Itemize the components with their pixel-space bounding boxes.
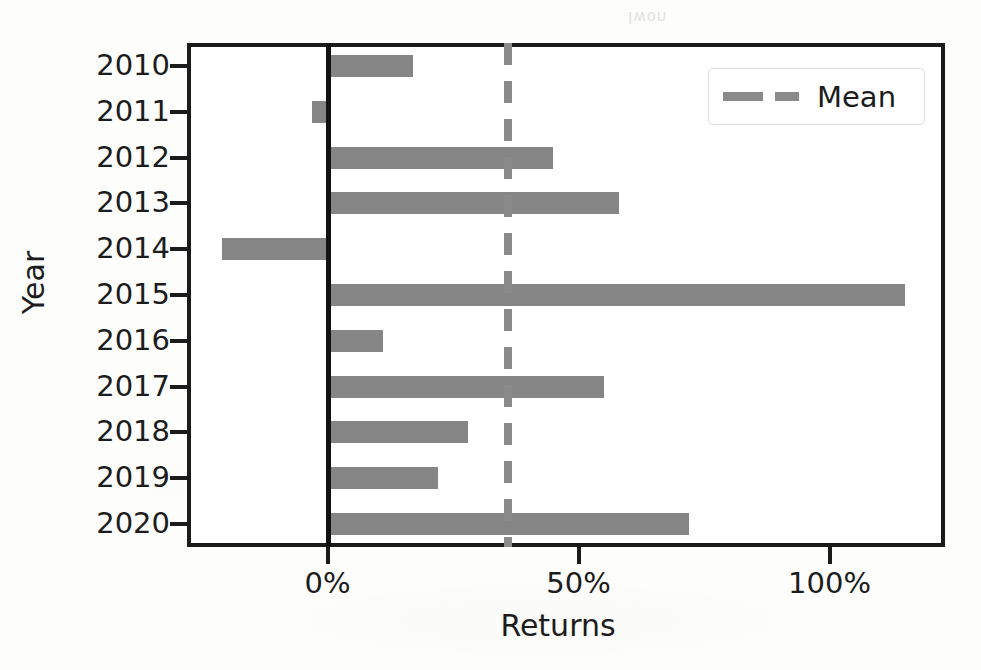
y-tick-label-2012: 2012	[96, 143, 170, 172]
y-tick-mark-2019	[170, 476, 187, 480]
mean-reference-line	[504, 43, 512, 547]
y-tick-label-2019: 2019	[96, 463, 170, 492]
y-tick-mark-2010	[170, 64, 187, 68]
y-tick-label-2010: 2010	[96, 51, 170, 80]
x-axis-title-text: Returns	[365, 608, 615, 643]
x-tick-mark-1	[577, 547, 581, 564]
returns-by-year-figure: Iwon 20102011201220132014201520162017201…	[0, 0, 981, 670]
y-tick-label-2011: 2011	[96, 97, 170, 126]
y-tick-mark-2018	[170, 430, 187, 434]
scan-bleed-artifact: Iwon	[628, 8, 778, 26]
x-axis-title: Returns	[0, 608, 981, 643]
y-axis-tick-labels: 2010201120122013201420152016201720182019…	[52, 0, 170, 670]
mean-line-swatch	[723, 92, 799, 101]
y-tick-mark-2016	[170, 339, 187, 343]
bar-2016	[328, 330, 383, 352]
x-tick-label-2: 100%	[788, 566, 871, 600]
zero-reference-line	[326, 43, 331, 547]
x-tick-mark-2	[828, 547, 832, 564]
y-tick-mark-2011	[170, 110, 187, 114]
bar-2018	[328, 421, 469, 443]
y-tick-label-2013: 2013	[96, 188, 170, 217]
x-tick-label-1: 50%	[546, 566, 610, 600]
bar-2019	[328, 467, 438, 489]
x-tick-mark-0	[326, 547, 330, 564]
y-tick-label-2017: 2017	[96, 372, 170, 401]
y-tick-mark-2020	[170, 522, 187, 526]
bar-2010	[328, 55, 413, 77]
y-tick-mark-2012	[170, 156, 187, 160]
chart-legend: Mean	[708, 68, 925, 125]
y-axis-title: Year	[16, 228, 51, 338]
bar-2017	[328, 376, 604, 398]
bar-2015	[328, 284, 905, 306]
bar-2014	[222, 238, 327, 260]
y-tick-label-2015: 2015	[96, 280, 170, 309]
y-tick-label-2018: 2018	[96, 417, 170, 446]
bar-2012	[328, 147, 554, 169]
bar-2013	[328, 192, 619, 214]
legend-label-mean: Mean	[817, 80, 896, 114]
y-tick-label-2016: 2016	[96, 326, 170, 355]
y-tick-mark-2014	[170, 247, 187, 251]
y-tick-mark-2015	[170, 293, 187, 297]
y-tick-mark-2017	[170, 385, 187, 389]
x-tick-label-0: 0%	[305, 566, 351, 600]
y-tick-label-2014: 2014	[96, 234, 170, 263]
y-tick-mark-2013	[170, 201, 187, 205]
y-tick-label-2020: 2020	[96, 509, 170, 538]
